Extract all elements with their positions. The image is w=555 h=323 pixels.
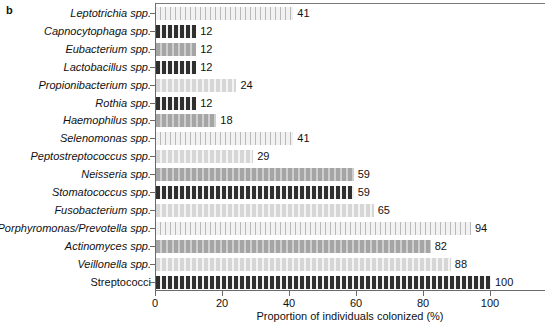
bar-value-label: 82	[435, 239, 447, 254]
bar	[156, 204, 374, 217]
y-axis-tick	[150, 120, 155, 121]
bar	[156, 240, 431, 253]
category-label: Fusobacterium spp.	[0, 201, 151, 220]
y-axis-tick	[150, 13, 155, 14]
y-axis-tick	[150, 138, 155, 139]
bar	[156, 222, 471, 235]
y-axis-tick	[150, 103, 155, 104]
bar-value-label: 12	[200, 24, 212, 39]
x-axis-tick	[356, 291, 357, 296]
y-axis-tick	[150, 31, 155, 32]
bar	[156, 25, 196, 38]
x-axis-tick	[222, 291, 223, 296]
bar-row: Capnocytophaga spp.12	[0, 22, 555, 41]
x-axis-tick	[490, 291, 491, 296]
bar-row: Streptococci100	[0, 273, 555, 292]
bar-value-label: 12	[200, 42, 212, 57]
category-label: Leptotrichia spp.	[0, 4, 151, 23]
bar-row: Veillonella spp.88	[0, 255, 555, 274]
y-axis-tick	[150, 264, 155, 265]
x-axis-tick-label: 60	[336, 297, 376, 310]
bar	[156, 186, 354, 199]
category-label: Selenomonas spp.	[0, 129, 151, 148]
category-label: Capnocytophaga spp.	[0, 22, 151, 41]
bar	[156, 276, 491, 289]
category-label: Rothia spp.	[0, 94, 151, 113]
figure-panel-b: b Leptotrichia spp.41Capnocytophaga spp.…	[0, 0, 555, 323]
bar-row: Peptostreptococcus spp.29	[0, 147, 555, 166]
y-axis-tick	[150, 67, 155, 68]
y-axis-tick	[150, 210, 155, 211]
category-label: Actinomyces spp.	[0, 237, 151, 256]
bar-value-label: 29	[257, 149, 269, 164]
bar-value-label: 12	[200, 60, 212, 75]
bar	[156, 168, 354, 181]
category-label: Neisseria spp.	[0, 165, 151, 184]
x-axis-tick	[155, 291, 156, 296]
category-label: Porphyromonas/Prevotella spp.	[0, 219, 151, 238]
bar-value-label: 41	[297, 6, 309, 21]
category-label: Streptococci	[0, 273, 151, 292]
bar-row: Actinomyces spp.82	[0, 237, 555, 256]
bar-value-label: 65	[378, 203, 390, 218]
bar-row: Rothia spp.12	[0, 94, 555, 113]
bar-row: Porphyromonas/Prevotella spp.94	[0, 219, 555, 238]
bar	[156, 79, 236, 92]
y-axis-tick	[150, 246, 155, 247]
bar-row: Selenomonas spp.41	[0, 129, 555, 148]
bar-row: Lactobacillus spp.12	[0, 58, 555, 77]
bar-value-label: 100	[495, 275, 513, 290]
bar-row: Eubacterium spp.12	[0, 40, 555, 59]
bar-row: Propionibacterium spp.24	[0, 76, 555, 95]
y-axis-tick	[150, 228, 155, 229]
bar-value-label: 41	[297, 131, 309, 146]
bar	[156, 97, 196, 110]
bar-row: Stomatococcus spp.59	[0, 183, 555, 202]
bar	[156, 61, 196, 74]
bar	[156, 132, 293, 145]
y-axis-tick	[150, 192, 155, 193]
y-axis-tick	[150, 282, 155, 283]
category-label: Lactobacillus spp.	[0, 58, 151, 77]
category-label: Stomatococcus spp.	[0, 183, 151, 202]
bar	[156, 7, 293, 20]
bar-value-label: 94	[475, 221, 487, 236]
bar-value-label: 24	[240, 78, 252, 93]
x-axis-title: Proportion of individuals colonized (%)	[155, 310, 545, 323]
x-axis-tick-label: 0	[135, 297, 175, 310]
bar	[156, 258, 451, 271]
bar	[156, 43, 196, 56]
bar-value-label: 12	[200, 96, 212, 111]
bar-row: Haemophilus spp.18	[0, 111, 555, 130]
bar-value-label: 59	[358, 185, 370, 200]
category-label: Peptostreptococcus spp.	[0, 147, 151, 166]
bar-row: Fusobacterium spp.65	[0, 201, 555, 220]
y-axis-tick	[150, 156, 155, 157]
bar-value-label: 59	[358, 167, 370, 182]
x-axis-tick-label: 100	[470, 297, 510, 310]
x-axis-tick	[289, 291, 290, 296]
y-axis-tick	[150, 49, 155, 50]
y-axis-tick	[150, 174, 155, 175]
bar-row: Neisseria spp.59	[0, 165, 555, 184]
x-axis-tick	[423, 291, 424, 296]
y-axis-tick	[150, 85, 155, 86]
bar-row: Leptotrichia spp.41	[0, 4, 555, 23]
bar-value-label: 18	[220, 113, 232, 128]
x-axis-tick-label: 20	[202, 297, 242, 310]
bar	[156, 114, 216, 127]
x-axis-tick-label: 80	[403, 297, 443, 310]
bar-value-label: 88	[455, 257, 467, 272]
category-label: Propionibacterium spp.	[0, 76, 151, 95]
category-label: Veillonella spp.	[0, 255, 151, 274]
x-axis-tick-label: 40	[269, 297, 309, 310]
category-label: Haemophilus spp.	[0, 111, 151, 130]
category-label: Eubacterium spp.	[0, 40, 151, 59]
bar	[156, 150, 253, 163]
